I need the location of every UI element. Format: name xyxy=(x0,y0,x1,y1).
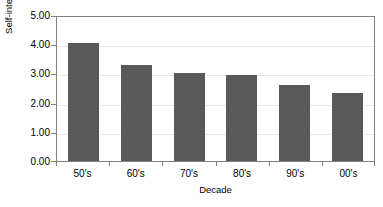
bar-chart: Self-interest well understood score 0.00… xyxy=(0,0,383,207)
y-axis-tick-label: 4.00 xyxy=(16,40,50,50)
x-axis-tick-label: 70's xyxy=(162,167,215,181)
bar-slot xyxy=(215,17,268,161)
x-axis-tick-mark xyxy=(322,162,323,166)
x-axis-tick-label: 80's xyxy=(216,167,269,181)
y-axis-tick-label: 2.00 xyxy=(16,99,50,109)
x-axis-tick-labels: 50's60's70's80's90's00's xyxy=(56,167,375,181)
x-axis-tick-mark xyxy=(216,162,217,166)
y-axis-tick-label: 3.00 xyxy=(16,69,50,79)
x-axis-tick-label: 00's xyxy=(322,167,375,181)
bar-slot xyxy=(321,17,374,161)
x-axis-tick-label: 50's xyxy=(56,167,109,181)
bar xyxy=(121,65,152,161)
bar xyxy=(279,85,310,162)
bar xyxy=(332,93,363,161)
x-axis-tick-mark xyxy=(269,162,270,166)
bar-slot xyxy=(268,17,321,161)
bars-group xyxy=(57,17,374,161)
y-axis-tick-label: 0.00 xyxy=(16,157,50,167)
bar xyxy=(226,75,257,161)
x-axis-tick-mark xyxy=(162,162,163,166)
bar-slot xyxy=(163,17,216,161)
y-axis-tick-label: 5.00 xyxy=(16,11,50,21)
x-axis-tick-mark xyxy=(109,162,110,166)
y-axis-tick-labels: 0.001.002.003.004.005.00 xyxy=(16,0,50,207)
y-axis-tick-label: 1.00 xyxy=(16,128,50,138)
x-axis-tick-marks xyxy=(56,162,375,166)
bar-slot xyxy=(57,17,110,161)
plot-area xyxy=(56,16,375,162)
x-axis-tick-label: 90's xyxy=(269,167,322,181)
x-axis-tick-label: 60's xyxy=(109,167,162,181)
bar-slot xyxy=(110,17,163,161)
x-axis-tick-mark xyxy=(56,162,57,166)
bar xyxy=(68,43,99,161)
bar xyxy=(174,73,205,161)
x-axis-title: Decade xyxy=(56,184,375,196)
x-axis-tick-mark xyxy=(374,162,375,166)
